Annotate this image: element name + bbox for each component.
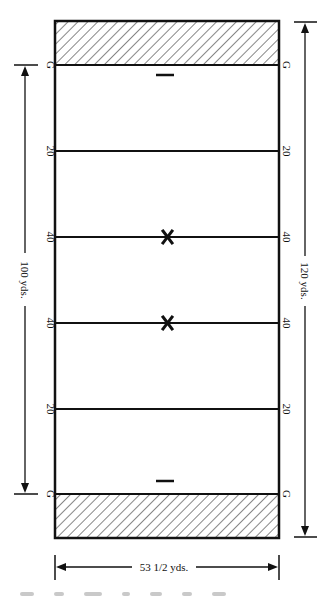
arrowhead-right-icon xyxy=(268,563,278,571)
cropped-caption-fragment xyxy=(20,592,320,600)
label-right-40-top: 40 xyxy=(281,232,293,244)
dimension-label-120-yds: 120 yds. xyxy=(299,262,311,300)
label-left-goal-top: G xyxy=(45,61,57,69)
arrowhead-left-icon xyxy=(56,563,66,571)
arrowhead-down-icon xyxy=(301,526,309,536)
arrowhead-up-icon xyxy=(301,23,309,33)
label-right-20-top: 20 xyxy=(281,146,293,158)
label-right-goal-bottom: G xyxy=(281,490,293,498)
label-right-40-bottom: 40 xyxy=(281,318,293,330)
dimension-label-100-yds: 100 yds. xyxy=(19,261,31,299)
label-right-goal-top: G xyxy=(281,61,293,69)
label-left-20-bottom: 20 xyxy=(45,404,57,416)
label-right-20-bottom: 20 xyxy=(281,404,293,416)
arrowhead-down-icon xyxy=(21,483,29,493)
label-left-20-top: 20 xyxy=(45,146,57,158)
field-diagram: G 20 40 40 20 G G 20 40 40 20 G 100 yds.… xyxy=(0,0,328,600)
field-boundary xyxy=(55,21,279,538)
top-end-zone xyxy=(55,21,279,65)
arrowhead-up-icon xyxy=(21,66,29,76)
bottom-end-zone xyxy=(55,494,279,538)
label-left-goal-bottom: G xyxy=(45,490,57,498)
dimension-label-53-5-yds: 53 1/2 yds. xyxy=(140,561,189,573)
label-left-40-top: 40 xyxy=(45,232,57,244)
label-left-40-bottom: 40 xyxy=(45,318,57,330)
